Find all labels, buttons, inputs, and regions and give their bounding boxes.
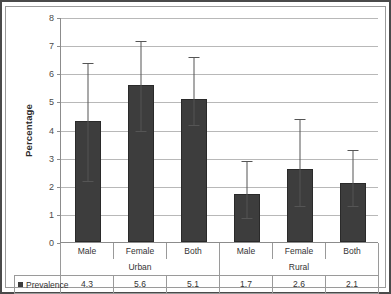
category-label-1: Female (114, 243, 167, 259)
error-bar-cap-lower (294, 206, 305, 207)
error-bar-line (87, 63, 88, 181)
error-bar-line (140, 41, 141, 131)
value-cell-1: 5.6 (114, 276, 167, 294)
value-cell-2: 5.1 (167, 276, 220, 294)
value-cell-4: 2.6 (273, 276, 326, 294)
error-bar-cap-lower (188, 125, 199, 126)
y-tick-label-2: 2 (49, 182, 54, 192)
y-tick-label-3: 3 (49, 154, 54, 164)
y-tick-label-5: 5 (49, 97, 54, 107)
error-bar-line (299, 119, 300, 206)
error-bar-line (193, 57, 194, 125)
error-bar-cap-lower (347, 206, 358, 207)
bar-slot (114, 18, 167, 242)
data-table: MaleFemaleBothMaleFemaleBoth UrbanRural … (14, 243, 379, 294)
error-bar-cap-upper (135, 41, 146, 42)
y-tick-label-6: 6 (49, 69, 54, 79)
error-bar-cap-lower (241, 218, 252, 219)
error-bar-cap-upper (188, 57, 199, 58)
category-label-0: Male (61, 243, 114, 259)
bar-slot (220, 18, 273, 242)
table-corner-cell-2 (15, 259, 61, 276)
table-row-prevalence: Prevalence4.35.65.11.72.62.1 (15, 276, 379, 294)
error-bar-cap-upper (82, 63, 93, 64)
y-tick-label-7: 7 (49, 41, 54, 51)
bar-slot (61, 18, 114, 242)
group-label-urban: Urban (61, 259, 220, 276)
table-corner-cell (15, 243, 61, 259)
bar-slot (273, 18, 326, 242)
legend-cell: Prevalence (15, 276, 61, 294)
y-tick-label-8: 8 (49, 13, 54, 23)
y-tick-label-1: 1 (49, 210, 54, 220)
category-label-4: Female (273, 243, 326, 259)
error-bar-line (246, 161, 247, 217)
error-bar-cap-upper (241, 161, 252, 162)
y-axis-title: Percentage (22, 18, 36, 243)
legend-label: Prevalence (26, 279, 69, 289)
error-bar-cap-lower (135, 131, 146, 132)
error-bar-cap-lower (82, 181, 93, 182)
category-label-5: Both (326, 243, 379, 259)
plot-area: 876543210 (60, 18, 378, 243)
value-cell-3: 1.7 (220, 276, 273, 294)
table-row-groups: UrbanRural (15, 259, 379, 276)
data-table-wrap: MaleFemaleBothMaleFemaleBoth UrbanRural … (14, 243, 378, 294)
value-cell-5: 2.1 (326, 276, 379, 294)
table-row-categories: MaleFemaleBothMaleFemaleBoth (15, 243, 379, 259)
category-label-2: Both (167, 243, 220, 259)
error-bar-line (352, 150, 353, 206)
bar-slot (167, 18, 220, 242)
y-tick-label-4: 4 (49, 126, 54, 136)
y-axis-title-text: Percentage (24, 104, 35, 157)
category-label-3: Male (220, 243, 273, 259)
chart-figure: Percentage 876543210 MaleFemaleBothMaleF… (0, 0, 391, 294)
group-label-rural: Rural (220, 259, 379, 276)
error-bar-cap-upper (347, 150, 358, 151)
square-swatch-icon (18, 282, 23, 287)
bar-slot (326, 18, 379, 242)
bars-group (61, 18, 378, 242)
error-bar-cap-upper (294, 119, 305, 120)
